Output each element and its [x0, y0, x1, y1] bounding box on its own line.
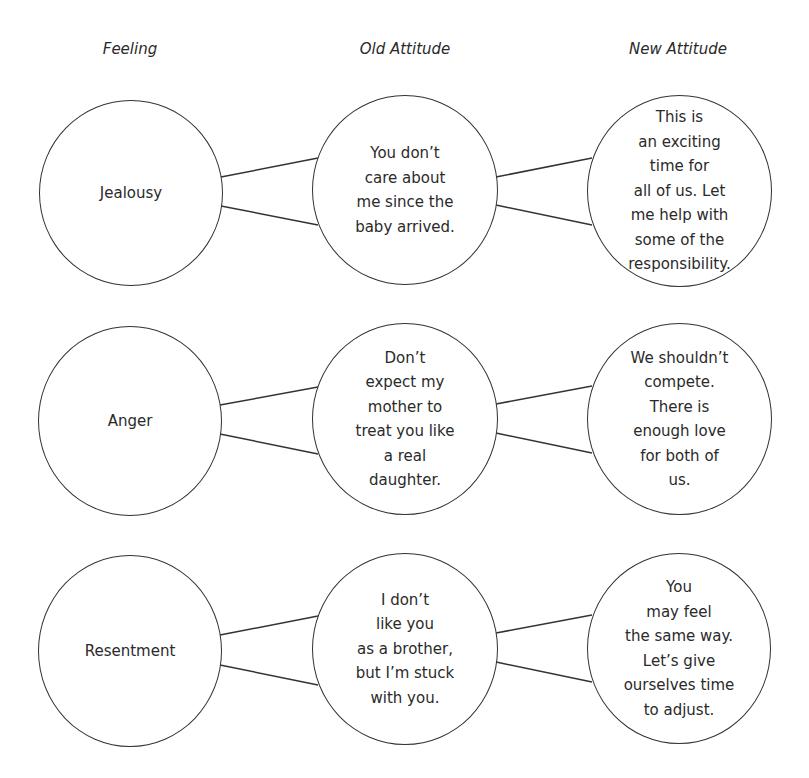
- feeling-circle-anger: Anger: [38, 326, 222, 516]
- connector-line: [496, 386, 592, 404]
- connector-line: [496, 615, 592, 633]
- new-attitude-text: We shouldn’t compete. There is enough lo…: [631, 346, 729, 493]
- new-attitude-circle-3: You may feel the same way. Let’s give ou…: [587, 553, 771, 744]
- new-attitude-circle-2: We shouldn’t compete. There is enough lo…: [587, 323, 772, 515]
- connector-line: [221, 158, 318, 177]
- new-attitude-circle-1: This is an exciting time for all of us. …: [587, 95, 772, 287]
- feeling-circle-resentment: Resentment: [38, 555, 222, 747]
- old-attitude-text: I don’t like you as a brother, but I’m s…: [356, 588, 454, 711]
- connector-line: [496, 205, 592, 225]
- feeling-label: Jealousy: [100, 181, 162, 206]
- new-attitude-text: You may feel the same way. Let’s give ou…: [624, 575, 735, 722]
- feeling-circle-jealousy: Jealousy: [39, 100, 223, 286]
- old-attitude-circle-1: You don’t care about me since the baby a…: [312, 95, 498, 285]
- connector-line: [496, 158, 592, 177]
- connector-line: [220, 387, 318, 405]
- old-attitude-circle-2: Don’t expect my mother to treat you like…: [312, 323, 498, 515]
- old-attitude-text: You don’t care about me since the baby a…: [355, 141, 455, 239]
- connector-line: [220, 665, 318, 685]
- new-attitude-text: This is an exciting time for all of us. …: [628, 105, 730, 277]
- feeling-label: Anger: [108, 409, 153, 434]
- connector-line: [221, 206, 318, 225]
- old-attitude-circle-3: I don’t like you as a brother, but I’m s…: [312, 553, 498, 745]
- connector-line: [496, 662, 592, 682]
- connector-line: [220, 616, 318, 635]
- old-attitude-text: Don’t expect my mother to treat you like…: [356, 346, 455, 493]
- connector-line: [496, 433, 592, 453]
- feeling-label: Resentment: [85, 639, 176, 664]
- connector-line: [220, 434, 318, 454]
